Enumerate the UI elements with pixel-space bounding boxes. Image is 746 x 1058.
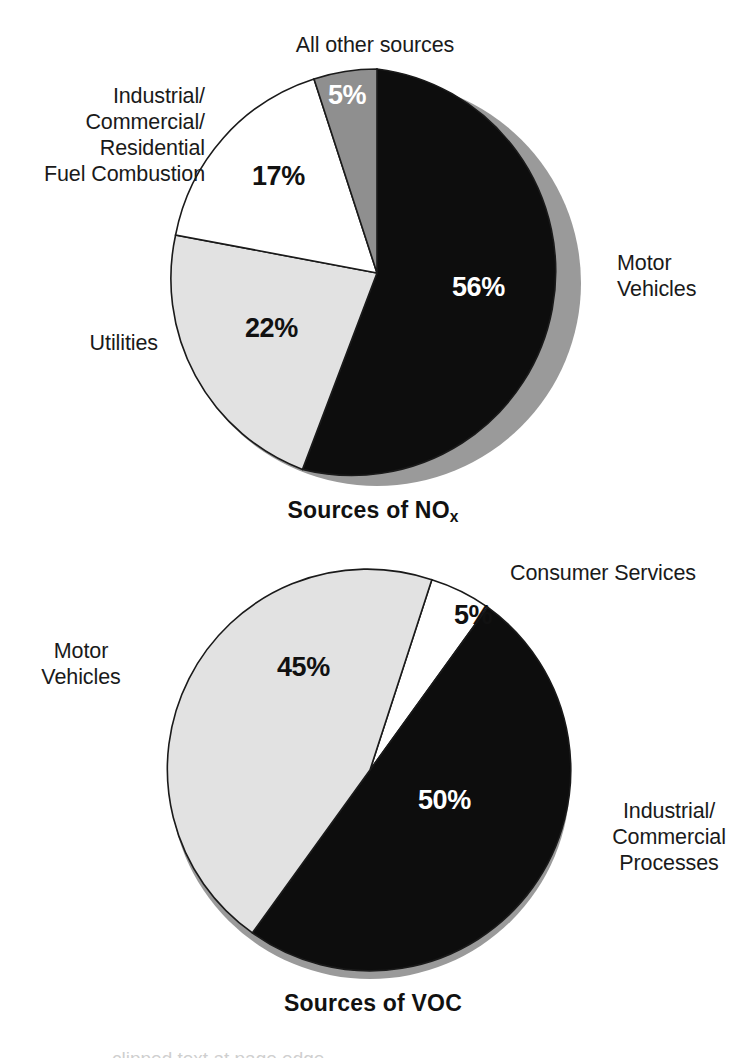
label-voc-consumer-services: Consumer Services [510,560,746,586]
label-voc-industrial-commercial-processes: Industrial/ Commercial Processes [592,798,746,876]
caption-sources-of-voc: Sources of VOC [0,990,746,1017]
label-nox-all-other-sources: All other sources [180,32,570,58]
page-bottom-clipped-text: clipped text at page edge [112,1049,672,1058]
pie-voc-graphic [0,540,746,1040]
caption-nox-subscript: x [450,508,459,525]
caption-voc-text: Sources of VOC [284,990,462,1016]
value-nox-fuel-combustion: 17% [252,161,305,192]
label-nox-fuel-combustion: Industrial/ Commercial/ Residential Fuel… [0,83,205,187]
chart-sources-of-nox: All other sources Industrial/ Commercial… [0,0,746,560]
figure-two-pie-charts: All other sources Industrial/ Commercial… [0,0,746,1058]
caption-sources-of-nox: Sources of NOx [0,497,746,524]
label-voc-motor-vehicles: Motor Vehicles [0,638,162,690]
label-nox-utilities: Utilities [0,330,158,356]
value-voc-consumer-services: 5% [454,600,492,631]
value-voc-motor-vehicles: 45% [277,652,330,683]
value-nox-all-other-sources: 5% [328,80,366,111]
label-nox-motor-vehicles: Motor Vehicles [617,250,746,302]
value-nox-motor-vehicles: 56% [452,272,505,303]
caption-nox-text: Sources of NO [287,497,449,523]
value-voc-industrial-commercial-processes: 50% [418,785,471,816]
chart-sources-of-voc: Consumer Services Motor Vehicles Industr… [0,540,746,1040]
value-nox-utilities: 22% [245,313,298,344]
